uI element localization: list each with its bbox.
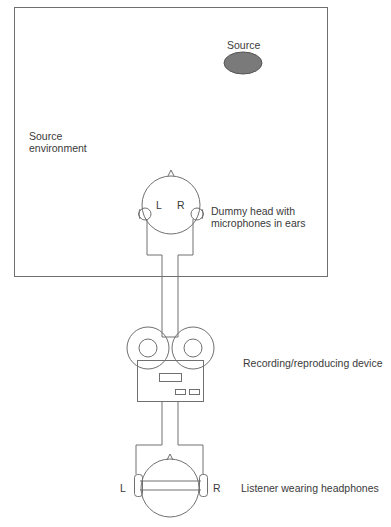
dummy-left-label: L <box>156 199 162 211</box>
listener-label: Listener wearing headphones <box>241 482 379 494</box>
dummy-right-label: R <box>177 199 185 211</box>
diagram-canvas <box>0 0 391 527</box>
left-reel-icon <box>127 327 169 369</box>
listener-head <box>135 454 208 517</box>
source-environment-label-line2: environment <box>29 142 87 154</box>
dummy-head-label-line2: microphones in ears <box>211 217 306 229</box>
device-display <box>160 374 182 382</box>
cable-device-to-headphones <box>136 401 203 474</box>
right-reel-icon <box>172 327 214 369</box>
dummy-head-label-line1: Dummy head with <box>211 205 295 217</box>
source-label: Source <box>227 39 260 51</box>
dummy-head <box>139 170 204 234</box>
recording-device <box>127 327 214 402</box>
source-environment-label-line1: Source <box>29 130 62 142</box>
sound-source <box>224 52 262 74</box>
listener-right-label: R <box>213 482 221 494</box>
listener-left-label: L <box>120 482 126 494</box>
device-button-2 <box>190 390 200 395</box>
device-button-1 <box>176 390 186 395</box>
cable-head-to-device <box>147 219 193 337</box>
device-label: Recording/reproducing device <box>243 357 383 369</box>
right-earcup-icon <box>200 475 208 497</box>
